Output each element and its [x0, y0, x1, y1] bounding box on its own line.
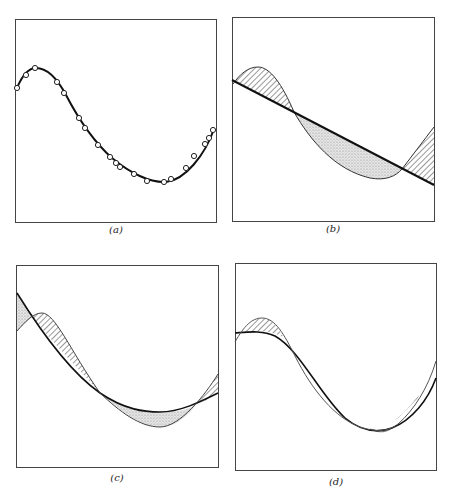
panel-d-hatch-right	[395, 392, 420, 420]
panel-c-frame	[17, 266, 219, 468]
panel-b-stipple-middle	[294, 112, 402, 179]
figure-canvas	[0, 0, 449, 495]
panel-a-data-points	[14, 65, 215, 184]
caption-d: (d)	[316, 476, 356, 487]
panel-d	[235, 264, 437, 471]
panel-b	[232, 18, 435, 222]
panel-d-hatch-top	[244, 318, 284, 338]
panel-c-approx-curve	[17, 293, 218, 412]
panel-c-hatch-left	[32, 313, 100, 393]
caption-a: (a)	[96, 224, 136, 235]
caption-b: (b)	[313, 223, 353, 234]
panel-c-stipple-middle	[100, 393, 196, 427]
panel-d-original-curve	[235, 318, 436, 430]
panel-d-frame	[236, 264, 437, 471]
panel-a	[14, 20, 216, 223]
panel-b-line-fit	[232, 80, 434, 185]
panel-b-frame	[233, 18, 435, 222]
panel-c	[17, 266, 219, 468]
panel-a-frame	[16, 20, 217, 223]
caption-c: (c)	[97, 472, 137, 483]
